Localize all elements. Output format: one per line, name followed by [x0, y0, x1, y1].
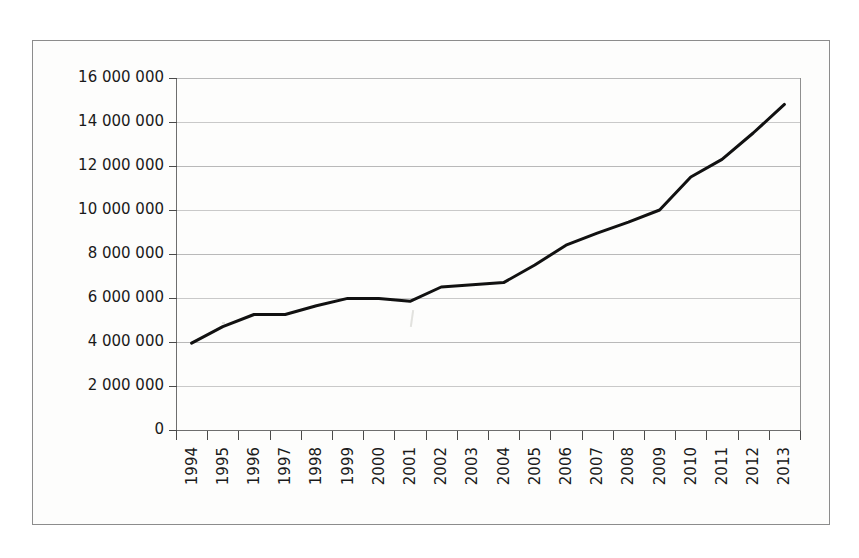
data-series-line — [0, 0, 859, 558]
scan-artifact-speck — [222, 322, 225, 324]
scanned-page: 02 000 0004 000 0006 000 0008 000 00010 … — [0, 0, 859, 558]
line-chart: 02 000 0004 000 0006 000 0008 000 00010 … — [0, 0, 859, 558]
